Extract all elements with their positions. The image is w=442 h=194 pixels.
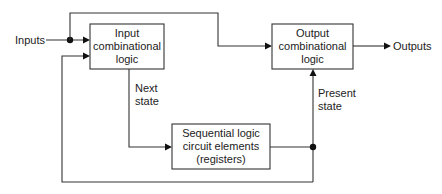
inputs-label: Inputs bbox=[15, 34, 45, 46]
input-logic-line-2: combinational bbox=[93, 40, 161, 52]
present-state-label-1: Present bbox=[318, 87, 356, 99]
input-logic-line-3: logic bbox=[116, 53, 139, 65]
output-logic-line-3: logic bbox=[301, 53, 324, 65]
arrow-into-sequential bbox=[165, 144, 172, 151]
present-state-label-2: state bbox=[318, 100, 342, 112]
present-state-junction-dot bbox=[310, 144, 316, 150]
sequential-logic-diagram: Inputs Input combinational logic Output … bbox=[0, 0, 442, 194]
next-state-line bbox=[129, 69, 166, 147]
input-logic-line-1: Input bbox=[115, 27, 139, 39]
output-logic-line-2: combinational bbox=[279, 40, 347, 52]
arrow-to-outputs bbox=[384, 43, 391, 50]
sequential-line-3: (registers) bbox=[196, 153, 246, 165]
arrow-into-output-logic bbox=[265, 43, 272, 50]
input-combinational-logic-block: Input combinational logic bbox=[90, 24, 164, 69]
next-state-label-2: state bbox=[135, 95, 159, 107]
arrow-into-input-logic bbox=[83, 37, 90, 44]
next-state-label-1: Next bbox=[135, 82, 158, 94]
output-combinational-logic-block: Output combinational logic bbox=[272, 24, 353, 69]
sequential-line-2: circuit elements bbox=[183, 140, 260, 152]
sequential-logic-block: Sequential logic circuit elements (regis… bbox=[172, 124, 270, 169]
sequential-line-1: Sequential logic bbox=[182, 127, 260, 139]
arrow-into-output-logic-bottom bbox=[310, 69, 317, 76]
arrow-feedback-into-input-logic bbox=[83, 53, 90, 60]
output-logic-line-1: Output bbox=[296, 27, 329, 39]
outputs-label: Outputs bbox=[393, 40, 432, 52]
